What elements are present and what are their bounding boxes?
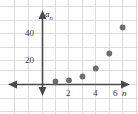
data-point: [93, 66, 99, 72]
scatter-plot-figure: 40 20 2 4 6 n an: [0, 0, 138, 114]
y-tick-label-20: 20: [25, 55, 34, 65]
y-axis-line: [39, 10, 47, 96]
y-axis-name-subscript: n: [50, 14, 53, 21]
x-tick-label-2: 2: [66, 88, 71, 98]
data-point: [80, 74, 86, 80]
y-axis-name: an: [45, 9, 53, 21]
x-tick-label-6: 6: [113, 88, 118, 98]
data-point: [53, 79, 59, 85]
x-tick-label-4: 4: [93, 88, 98, 98]
data-point: [120, 25, 126, 31]
y-tick-label-40: 40: [25, 28, 34, 38]
x-axis-name: n: [122, 88, 127, 98]
data-point: [66, 77, 72, 83]
data-point: [106, 51, 112, 57]
